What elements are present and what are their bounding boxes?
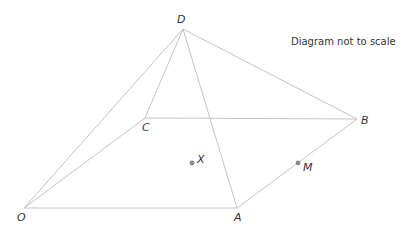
- vertex-label-A: A: [233, 211, 242, 224]
- vertex-label-B: B: [361, 114, 369, 127]
- edge-BC: [145, 118, 357, 119]
- point-M-dot: [296, 161, 301, 166]
- point-label-X: X: [196, 153, 205, 166]
- scale-note: Diagram not to scale: [291, 36, 396, 47]
- vertex-label-O: O: [17, 211, 26, 224]
- point-label-M: M: [303, 161, 313, 174]
- point-X-dot: [190, 161, 195, 166]
- edge-DC: [145, 29, 183, 118]
- edge-CO: [24, 118, 145, 208]
- vertex-label-D: D: [177, 13, 185, 26]
- vertex-label-C: C: [142, 121, 150, 134]
